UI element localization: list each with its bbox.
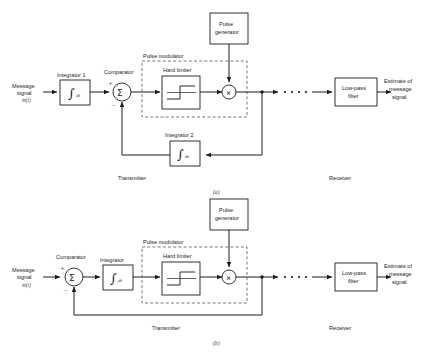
integrator2-label: Integrator 2 — [165, 132, 194, 138]
channel-dot-2 — [291, 91, 293, 93]
caption-b: (b) — [213, 340, 220, 347]
multiplier-symbol: × — [226, 89, 231, 96]
channel-dot-4-b — [305, 276, 307, 278]
hard-limiter-label-b: Hard limiter — [163, 253, 192, 259]
integrator1-symbol-suffix: dt — [76, 93, 81, 98]
output-label-line1-b: Estimate of — [384, 263, 412, 269]
channel-dot-3-b — [298, 276, 300, 278]
output-label-line3: signal — [392, 94, 407, 100]
input-label-line2: signal — [17, 90, 32, 96]
comparator-label: Comparator — [104, 69, 134, 75]
multiplier-symbol-b: × — [226, 274, 231, 281]
pulse-generator-label-line2-b: generator — [215, 215, 239, 221]
diagram-a: Message signal m(t) Integrator 1 ∫ dt Co… — [12, 13, 412, 196]
integrator2-symbol-suffix: dt — [185, 154, 190, 159]
integrator1-box — [60, 80, 90, 105]
comparator-symbol-b: Σ — [69, 273, 75, 283]
channel-dot-3 — [298, 91, 300, 93]
output-label-line2: message — [389, 86, 412, 92]
comparator-plus-sign: + — [109, 80, 112, 86]
channel-dot-4 — [305, 91, 307, 93]
channel-dot-1-b — [284, 276, 286, 278]
integrator-label-b: Integrator — [100, 257, 124, 263]
comparator-minus-sign: − — [112, 102, 115, 108]
comparator-plus-sign-b: + — [61, 265, 64, 271]
lowpass-filter-box — [335, 78, 377, 106]
pulse-modulator-label-b: Pulse modulator — [143, 239, 184, 245]
lowpass-filter-label-line2-b: filter — [348, 278, 359, 284]
output-label-line2-b: message — [389, 271, 412, 277]
receiver-label-b: Receiver — [329, 325, 351, 331]
transmitter-label-b: Transmitter — [152, 325, 180, 331]
input-label-line2-b: signal — [17, 274, 32, 280]
integrator-symbol-b: ∫ — [110, 271, 117, 286]
input-label-signal-var: m(t) — [22, 97, 31, 104]
lowpass-filter-box-b — [335, 263, 377, 291]
lowpass-filter-label-line1: Low-pass — [342, 85, 366, 91]
output-label-line3-b: signal — [392, 279, 407, 285]
pulse-generator-label-line2: generator — [215, 29, 239, 35]
pulse-generator-label-line1-b: Pulse — [219, 207, 233, 213]
integrator-symbol-suffix-b: dt — [118, 278, 123, 283]
pulse-modulator-label: Pulse modulator — [143, 53, 184, 59]
integrator1-label: Integrator 1 — [57, 72, 86, 78]
comparator-label-b: Comparator — [56, 254, 86, 260]
caption-a: (a) — [213, 189, 220, 196]
comparator-symbol: Σ — [117, 88, 123, 98]
hard-limiter-label: Hard limiter — [163, 67, 192, 73]
lowpass-filter-label-line2: filter — [348, 93, 359, 99]
channel-dot-2-b — [291, 276, 293, 278]
input-label-line1-b: Message — [12, 267, 35, 273]
input-label-line1: Message — [12, 83, 35, 89]
transmitter-label: Transmitter — [118, 175, 146, 181]
input-label-signal-var-b: m(t) — [22, 282, 31, 289]
lowpass-filter-label-line1-b: Low-pass — [342, 270, 366, 276]
figure-container: Message signal m(t) Integrator 1 ∫ dt Co… — [0, 0, 434, 358]
comparator-minus-sign-b: − — [64, 287, 67, 293]
diagram-b: Message signal m(t) Comparator Σ + − Int… — [12, 199, 412, 347]
pulse-generator-label-line1: Pulse — [219, 21, 233, 27]
integrator1-symbol: ∫ — [68, 86, 75, 101]
channel-dot-1 — [284, 91, 286, 93]
integrator2-symbol: ∫ — [177, 147, 184, 162]
receiver-label: Receiver — [329, 175, 351, 181]
output-label-line1: Estimate of — [384, 78, 412, 84]
